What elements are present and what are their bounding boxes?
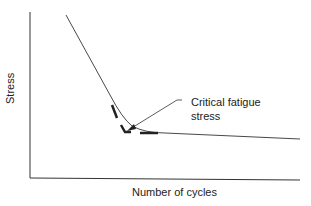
sn-curve	[66, 15, 300, 139]
x-axis	[30, 178, 300, 180]
annotation-leader	[130, 100, 182, 129]
annotation-line-1: Critical fatigue	[191, 95, 261, 109]
y-axis-label: Stress	[4, 73, 16, 104]
chart-canvas	[0, 0, 311, 206]
annotation: Critical fatigue stress	[191, 95, 261, 123]
x-axis-label: Number of cycles	[0, 186, 311, 198]
annotation-line-2: stress	[191, 109, 261, 123]
